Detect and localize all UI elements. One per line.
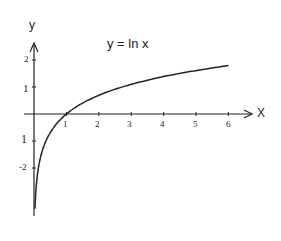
x-tick-label: 2	[95, 119, 100, 129]
ln-curve	[35, 66, 228, 209]
y-axis-label: y	[29, 18, 35, 32]
y-tick-label: 2	[24, 54, 29, 64]
chart-title: y = ln x	[107, 36, 149, 51]
x-tick-label: 6	[226, 119, 231, 129]
x-tick-label: 4	[160, 119, 165, 129]
y-tick-label: -2	[19, 162, 27, 172]
x-axis-label: X	[257, 106, 265, 120]
x-tick-label: 5	[193, 119, 198, 129]
x-tick-label: 3	[127, 119, 132, 129]
y-tick-label: 1	[23, 82, 29, 94]
x-tick-label: 1	[63, 119, 68, 129]
y-tick-label: 1	[21, 132, 27, 147]
